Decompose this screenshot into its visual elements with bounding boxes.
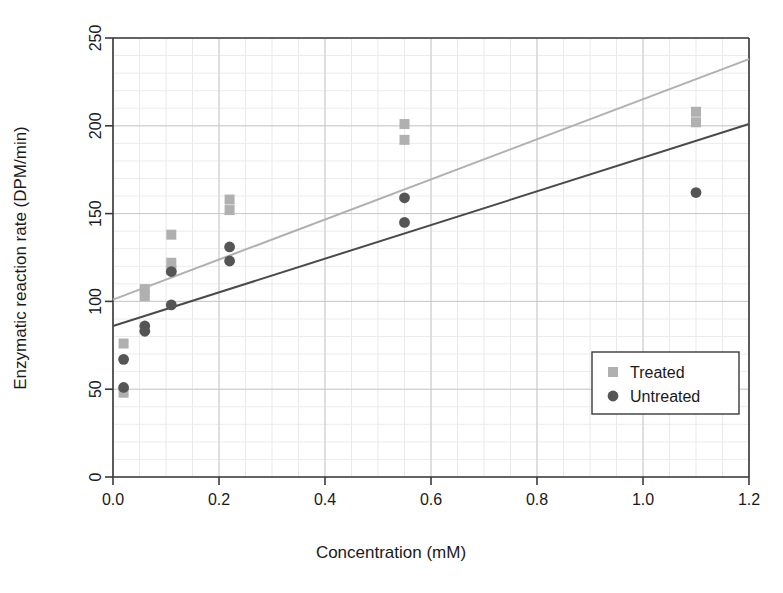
legend-marker-square bbox=[608, 367, 618, 377]
data-point-square bbox=[691, 117, 701, 127]
data-point-circle bbox=[118, 354, 129, 365]
x-axis-title: Concentration (mM) bbox=[316, 543, 466, 562]
x-tick-labels: 0.00.20.40.60.81.01.2 bbox=[102, 491, 760, 508]
scatter-chart-figure: 0.00.20.40.60.81.01.2 050100150200250 Co… bbox=[0, 0, 783, 593]
data-point-square bbox=[140, 291, 150, 301]
data-point-circle bbox=[224, 256, 235, 267]
legend-label: Untreated bbox=[630, 388, 700, 405]
data-point-circle bbox=[224, 242, 235, 253]
data-point-circle bbox=[139, 326, 150, 337]
data-point-square bbox=[691, 107, 701, 117]
data-point-circle bbox=[399, 192, 410, 203]
x-tick-label: 0.2 bbox=[208, 491, 230, 508]
x-tick-label: 0.8 bbox=[526, 491, 548, 508]
legend-marker-circle bbox=[608, 391, 619, 402]
data-point-square bbox=[400, 135, 410, 145]
data-point-square bbox=[400, 119, 410, 129]
x-tick-label: 0.0 bbox=[102, 491, 124, 508]
data-point-circle bbox=[118, 382, 129, 393]
chart-svg: 0.00.20.40.60.81.01.2 050100150200250 Co… bbox=[0, 0, 783, 593]
x-tick-label: 1.2 bbox=[738, 491, 760, 508]
y-tick-label: 200 bbox=[87, 112, 104, 139]
legend: TreatedUntreated bbox=[592, 352, 739, 414]
data-point-circle bbox=[166, 300, 177, 311]
y-tick-label: 150 bbox=[87, 200, 104, 227]
y-axis-title: Enzymatic reaction rate (DPM/min) bbox=[11, 126, 30, 390]
axis-ticks bbox=[105, 38, 749, 485]
data-point-square bbox=[166, 230, 176, 240]
y-tick-label: 100 bbox=[87, 288, 104, 315]
y-tick-label: 250 bbox=[87, 25, 104, 52]
y-tick-label: 0 bbox=[87, 472, 104, 481]
legend-label: Treated bbox=[630, 364, 685, 381]
data-point-square bbox=[225, 205, 235, 215]
x-tick-label: 0.6 bbox=[420, 491, 442, 508]
data-point-square bbox=[119, 339, 129, 349]
data-point-circle bbox=[166, 266, 177, 277]
data-point-circle bbox=[399, 217, 410, 228]
y-tick-label: 50 bbox=[87, 380, 104, 398]
y-tick-labels: 050100150200250 bbox=[87, 25, 104, 482]
x-tick-label: 0.4 bbox=[314, 491, 336, 508]
x-tick-label: 1.0 bbox=[632, 491, 654, 508]
data-point-square bbox=[225, 195, 235, 205]
data-point-circle bbox=[691, 187, 702, 198]
